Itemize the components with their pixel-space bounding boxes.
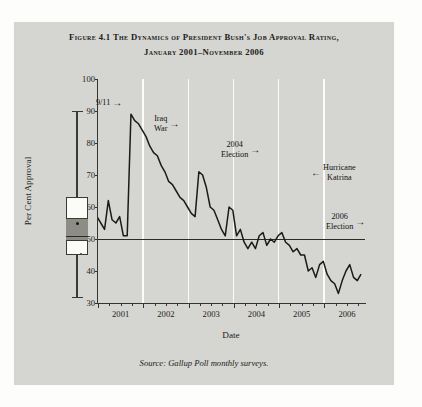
annotation-2004-election: 2004Election→ bbox=[221, 140, 260, 159]
x-tick-minor bbox=[256, 303, 257, 306]
x-tick-label: 2003 bbox=[203, 309, 220, 319]
x-tick-minor bbox=[200, 303, 201, 306]
figure-title-line2: January 2001–November 2006 bbox=[14, 45, 394, 60]
y-tick-mark bbox=[95, 175, 99, 176]
x-tick-minor bbox=[132, 303, 133, 306]
annotation-iraq-war-text: IraqWar bbox=[154, 114, 167, 133]
y-tick-mark bbox=[95, 143, 99, 144]
figure-title: Figure 4.1 The Dynamics of President Bus… bbox=[14, 30, 394, 60]
x-tick-minor bbox=[358, 303, 359, 306]
annotation-iraq-war-arrow-icon: → bbox=[169, 118, 179, 129]
annotation-2004-election-text: 2004Election bbox=[221, 140, 248, 159]
x-tick-label: 2002 bbox=[157, 309, 174, 319]
x-tick-minor bbox=[268, 303, 269, 306]
annotation-911-text: 9/11 bbox=[96, 98, 110, 108]
x-tick-minor bbox=[347, 303, 348, 306]
x-tick-minor bbox=[155, 303, 156, 306]
annotation-katrina-arrow-icon: ← bbox=[311, 167, 321, 178]
annotation-2006-election-arrow-icon: → bbox=[355, 216, 365, 227]
x-tick-label: 2001 bbox=[112, 309, 129, 319]
x-tick-minor bbox=[336, 303, 337, 306]
x-tick-minor bbox=[245, 303, 246, 306]
annotation-911-arrow-icon: → bbox=[112, 97, 122, 108]
figure-panel: Figure 4.1 The Dynamics of President Bus… bbox=[14, 22, 394, 385]
x-tick-mark bbox=[234, 303, 235, 308]
x-tick-minor bbox=[313, 303, 314, 306]
marginal-boxplot bbox=[66, 79, 88, 303]
y-tick-mark bbox=[95, 79, 99, 80]
x-tick-minor bbox=[166, 303, 167, 306]
boxplot-mean-marker bbox=[76, 222, 79, 225]
annotation-2004-election-arrow-icon: → bbox=[250, 144, 260, 155]
x-tick-minor bbox=[302, 303, 303, 306]
annotation-iraq-war: IraqWar→ bbox=[154, 114, 179, 133]
source-note: Source: Gallup Poll monthly surveys. bbox=[14, 358, 394, 368]
boxplot-outlier-point bbox=[80, 253, 82, 255]
x-axis-label: Date bbox=[97, 330, 365, 340]
y-tick-mark bbox=[95, 271, 99, 272]
annotation-katrina: ←HurricaneKatrina bbox=[311, 163, 356, 182]
boxplot-median-line bbox=[66, 236, 88, 237]
axis-frame: 3040506070809010020012002200320042005200… bbox=[97, 79, 366, 304]
x-tick-label: 2006 bbox=[338, 309, 355, 319]
x-tick-minor bbox=[121, 303, 122, 306]
y-tick-mark bbox=[95, 207, 99, 208]
x-tick-mark bbox=[98, 303, 99, 308]
y-tick-mark bbox=[95, 239, 99, 240]
annotation-911: 9/11→ bbox=[96, 98, 122, 108]
x-tick-label: 2004 bbox=[248, 309, 265, 319]
x-tick-minor bbox=[290, 303, 291, 306]
x-tick-mark bbox=[324, 303, 325, 308]
annotation-2006-election: 2006Election→ bbox=[326, 212, 365, 231]
y-axis-label: Per Cent Approval bbox=[23, 157, 33, 225]
x-tick-minor bbox=[222, 303, 223, 306]
x-tick-minor bbox=[211, 303, 212, 306]
boxplot-whisker-upper bbox=[76, 111, 77, 197]
boxplot-cap-min bbox=[72, 297, 83, 298]
annotation-2006-election-text: 2006Election bbox=[326, 212, 353, 231]
x-tick-mark bbox=[279, 303, 280, 308]
x-tick-minor bbox=[109, 303, 110, 306]
figure-title-line1: Figure 4.1 The Dynamics of President Bus… bbox=[69, 32, 339, 42]
annotation-katrina-text: HurricaneKatrina bbox=[323, 163, 356, 182]
boxplot-whisker-lower bbox=[76, 255, 77, 297]
x-tick-mark bbox=[143, 303, 144, 308]
x-tick-minor bbox=[177, 303, 178, 306]
boxplot-cap-max bbox=[72, 111, 83, 112]
y-tick-mark bbox=[95, 111, 99, 112]
x-tick-mark bbox=[189, 303, 190, 308]
x-tick-label: 2005 bbox=[293, 309, 310, 319]
